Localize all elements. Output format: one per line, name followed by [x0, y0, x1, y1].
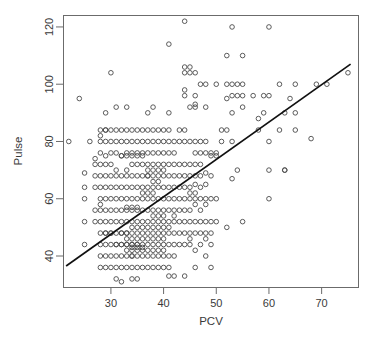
data-point — [130, 237, 135, 242]
data-point — [151, 265, 156, 270]
data-point — [267, 139, 272, 144]
data-point — [203, 219, 208, 224]
data-point — [151, 196, 156, 201]
data-point — [230, 93, 235, 98]
data-point — [177, 139, 182, 144]
data-point — [145, 237, 150, 242]
data-point — [182, 162, 187, 167]
data-point — [203, 237, 208, 242]
data-point — [188, 191, 193, 196]
data-point — [114, 219, 119, 224]
data-point — [156, 248, 161, 253]
data-point — [198, 82, 203, 87]
data-point — [203, 151, 208, 156]
data-point — [130, 254, 135, 259]
data-point — [161, 168, 166, 173]
data-point — [151, 174, 156, 179]
data-point — [167, 162, 172, 167]
data-point — [203, 231, 208, 236]
data-point — [293, 111, 298, 116]
x-tick-label: 50 — [210, 297, 222, 309]
data-point — [193, 248, 198, 253]
data-point — [98, 128, 103, 133]
data-point — [193, 196, 198, 201]
data-point — [282, 168, 287, 173]
data-point — [140, 219, 145, 224]
data-point — [135, 237, 140, 242]
data-point — [151, 242, 156, 247]
data-point — [145, 231, 150, 236]
data-point — [109, 196, 114, 201]
data-point — [140, 265, 145, 270]
y-tick-label: 120 — [43, 18, 55, 36]
data-point — [193, 219, 198, 224]
data-point — [114, 174, 119, 179]
data-point — [267, 25, 272, 30]
data-point — [114, 151, 119, 156]
data-point — [193, 182, 198, 187]
data-point — [193, 105, 198, 110]
data-point — [235, 93, 240, 98]
data-point — [198, 185, 203, 190]
data-point — [103, 111, 108, 116]
data-point — [98, 139, 103, 144]
data-point — [145, 254, 150, 259]
data-point — [93, 174, 98, 179]
data-point — [130, 231, 135, 236]
data-point — [103, 231, 108, 236]
data-point — [203, 105, 208, 110]
data-point — [151, 231, 156, 236]
data-point — [188, 105, 193, 110]
data-point — [114, 265, 119, 270]
data-point — [66, 139, 71, 144]
data-point — [225, 53, 230, 58]
data-point — [209, 219, 214, 224]
data-point — [114, 168, 119, 173]
data-point — [135, 128, 140, 133]
data-point — [82, 196, 87, 201]
data-point — [124, 153, 129, 158]
data-point — [277, 82, 282, 87]
data-point — [114, 105, 119, 110]
x-axis-ticks: 3040506070 — [105, 288, 328, 310]
data-point — [198, 174, 203, 179]
data-point — [98, 196, 103, 201]
data-point — [182, 19, 187, 24]
data-point — [182, 93, 187, 98]
data-point — [151, 191, 156, 196]
data-point — [167, 208, 172, 213]
y-tick-label: 40 — [43, 250, 55, 262]
data-point — [161, 248, 166, 253]
data-point — [203, 82, 208, 87]
data-point — [124, 254, 129, 259]
data-point — [114, 277, 119, 282]
data-point — [130, 185, 135, 190]
data-point — [130, 174, 135, 179]
data-point — [114, 185, 119, 190]
data-point — [130, 265, 135, 270]
data-point — [167, 274, 172, 279]
data-point — [119, 219, 124, 224]
data-point — [203, 254, 208, 259]
data-point — [130, 208, 135, 213]
data-point — [161, 242, 166, 247]
data-point — [140, 139, 145, 144]
data-point — [98, 202, 103, 207]
data-point — [293, 128, 298, 133]
data-point — [145, 162, 150, 167]
y-tick-label: 80 — [43, 135, 55, 147]
data-point — [293, 82, 298, 87]
data-point — [130, 153, 135, 158]
data-point — [182, 219, 187, 224]
data-point — [203, 196, 208, 201]
data-point — [167, 128, 172, 133]
data-point — [145, 242, 150, 247]
data-point — [151, 168, 156, 173]
data-point — [140, 153, 145, 158]
data-point — [124, 265, 129, 270]
data-point — [145, 225, 150, 230]
data-point — [140, 254, 145, 259]
data-point — [119, 242, 124, 247]
data-point — [172, 231, 177, 236]
data-point — [140, 248, 145, 253]
